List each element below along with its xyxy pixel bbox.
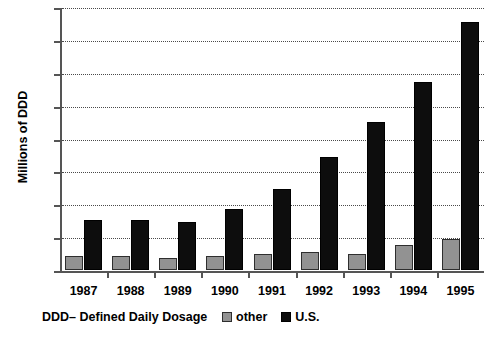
x-tick-mark [296, 271, 298, 278]
legend-label-us: U.S. [295, 310, 319, 324]
gridline [62, 8, 484, 9]
chart-container: Millions of DDD 04080120160200240280320 … [0, 0, 494, 337]
bar-other-1992 [301, 252, 319, 270]
x-tick-mark [437, 271, 439, 278]
y-tick-mark [54, 107, 61, 109]
x-tick-mark [390, 271, 392, 278]
legend-swatch-other-icon [222, 312, 232, 322]
x-tick-mark [343, 271, 345, 278]
bar-us-1994 [414, 82, 432, 270]
gridline [62, 41, 484, 42]
y-axis-title: Millions of DDD [16, 52, 30, 222]
y-tick-mark [54, 271, 61, 273]
y-tick-mark [54, 172, 61, 174]
bar-us-1989 [178, 222, 196, 270]
bar-other-1991 [254, 254, 272, 270]
bar-us-1990 [225, 209, 243, 270]
bar-other-1995 [442, 239, 460, 270]
y-tick-mark [54, 74, 61, 76]
x-tick-mark [201, 271, 203, 278]
legend-label-other: other [236, 310, 267, 324]
y-tick-mark [54, 238, 61, 240]
x-axis-line [60, 271, 484, 273]
bar-us-1992 [320, 157, 338, 270]
x-tick-mark [154, 271, 156, 278]
plot-area: 04080120160200240280320 1987198819891990… [60, 8, 484, 272]
bar-us-1991 [273, 189, 291, 270]
bar-other-1989 [159, 258, 177, 270]
bar-other-1988 [112, 256, 130, 270]
legend-item-us[interactable]: U.S. [281, 310, 319, 324]
x-tick-label: 1995 [430, 284, 490, 298]
legend-item-other[interactable]: other [222, 310, 267, 324]
chart-legend: other U.S. [222, 310, 328, 324]
y-tick-mark [54, 140, 61, 142]
x-tick-mark [248, 271, 250, 278]
bar-other-1987 [65, 256, 83, 270]
bar-us-1995 [461, 22, 479, 270]
bar-us-1987 [84, 220, 102, 270]
y-tick-mark [54, 8, 61, 10]
y-tick-mark [54, 41, 61, 43]
bar-other-1993 [348, 254, 366, 270]
bar-us-1993 [367, 122, 385, 270]
x-tick-mark [107, 271, 109, 278]
gridline [62, 74, 484, 75]
bar-other-1994 [395, 245, 413, 270]
bar-us-1988 [131, 220, 149, 270]
bar-other-1990 [206, 256, 224, 270]
y-tick-mark [54, 205, 61, 207]
footer-note: DDD– Defined Daily Dosage [42, 310, 207, 324]
legend-swatch-us-icon [281, 312, 291, 322]
